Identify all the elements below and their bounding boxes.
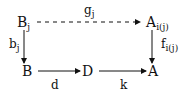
label-k: k	[120, 79, 127, 91]
label-d: d	[51, 79, 59, 91]
node-Aij: Ai(j)	[146, 15, 169, 29]
node-B: B	[22, 64, 32, 78]
label-g: gj	[84, 4, 94, 16]
label-b: bj	[9, 38, 19, 50]
node-D: D	[82, 64, 93, 78]
label-f: fi(j)	[161, 38, 178, 50]
node-A: A	[148, 64, 158, 78]
node-Bj: Bj	[17, 15, 30, 29]
